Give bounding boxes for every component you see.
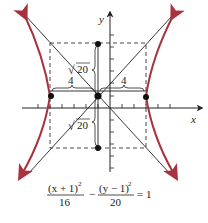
hyperbola-right-branch xyxy=(146,14,174,174)
vertex-left xyxy=(48,93,54,99)
y-axis-label: y xyxy=(98,13,104,25)
label-b-top: √ 20 xyxy=(68,63,90,77)
svg-text:(x + 1): (x + 1) xyxy=(48,182,78,195)
svg-text:20: 20 xyxy=(110,196,122,208)
co-vertex-top xyxy=(95,41,101,47)
svg-text:= 1: = 1 xyxy=(137,188,151,200)
svg-text:−: − xyxy=(89,188,95,200)
equation: (x + 1) 2 16 − (y − 1) 2 20 = 1 xyxy=(47,180,151,208)
x-axis-label: x xyxy=(190,113,196,125)
hyperbola-diagram: x y 4 4 xyxy=(0,0,208,223)
svg-text:√: √ xyxy=(68,63,75,77)
svg-text:2: 2 xyxy=(78,180,82,188)
label-a-right: 4 xyxy=(121,74,127,86)
vertex-right xyxy=(143,94,149,100)
svg-text:20: 20 xyxy=(77,119,89,131)
svg-text:(y − 1): (y − 1) xyxy=(99,182,129,195)
svg-text:20: 20 xyxy=(77,63,89,75)
center-point xyxy=(94,92,101,99)
svg-text:√: √ xyxy=(68,119,75,133)
svg-text:2: 2 xyxy=(128,180,132,188)
label-b-bottom: √ 20 xyxy=(68,119,90,133)
co-vertex-bottom xyxy=(95,145,101,151)
svg-text:16: 16 xyxy=(59,196,71,208)
